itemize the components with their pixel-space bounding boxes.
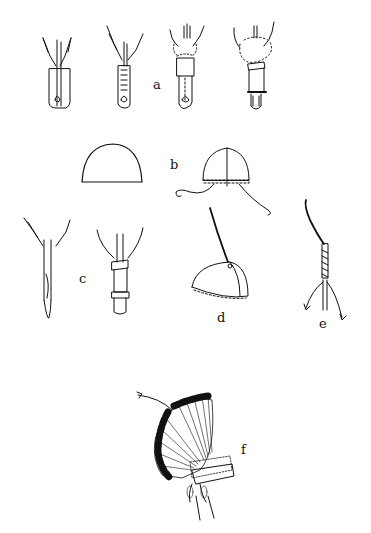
panel-d-cap	[192, 208, 248, 298]
label-d: d	[217, 311, 225, 324]
label-c: c	[79, 272, 86, 285]
panel-f-bonnet	[137, 392, 234, 520]
panel-b-cap	[176, 148, 271, 215]
illustration-canvas	[0, 0, 371, 533]
panel-a-stage-2	[107, 26, 143, 108]
label-b: b	[170, 158, 178, 171]
label-a: a	[153, 78, 161, 91]
panel-c-split-quill	[24, 218, 70, 318]
label-f: f	[241, 443, 246, 456]
panel-a-stage-4	[234, 22, 274, 109]
panel-a-stage-3	[170, 24, 204, 109]
panel-c-wrapped-quill	[97, 228, 143, 314]
label-e: e	[319, 317, 327, 330]
panel-a-stage-1	[43, 38, 71, 108]
panel-e-thong	[304, 200, 346, 320]
panel-b-pattern	[82, 144, 142, 182]
